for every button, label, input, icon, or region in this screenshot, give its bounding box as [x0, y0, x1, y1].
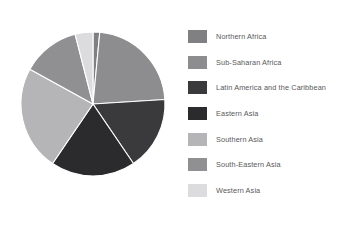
legend-item[interactable]: Southern Asia: [188, 126, 337, 152]
legend-item[interactable]: South-Eastern Asia: [188, 152, 337, 178]
legend-swatch-icon: [188, 81, 207, 94]
legend-item-label: Western Asia: [216, 187, 260, 194]
legend-item[interactable]: Latin America and the Caribbean: [188, 75, 337, 101]
legend-item[interactable]: Northern Africa: [188, 24, 337, 50]
legend-swatch-icon: [188, 30, 207, 43]
pie-slice-group: [21, 32, 165, 176]
pie-chart-figure: Northern AfricaSub-Saharan AfricaLatin A…: [0, 0, 337, 229]
legend-item[interactable]: Sub-Saharan Africa: [188, 50, 337, 76]
pie-svg: [0, 0, 190, 229]
legend-swatch-icon: [188, 133, 207, 146]
legend-swatch-icon: [188, 184, 207, 197]
legend-swatch-icon: [188, 56, 207, 69]
legend-swatch-icon: [188, 158, 207, 171]
chart-legend: Northern AfricaSub-Saharan AfricaLatin A…: [188, 24, 337, 203]
legend-item-label: Sub-Saharan Africa: [216, 59, 281, 66]
legend-item-label: Eastern Asia: [216, 110, 258, 117]
legend-item[interactable]: Eastern Asia: [188, 101, 337, 127]
pie-plot-area: [0, 0, 190, 229]
legend-item-label: Northern Africa: [216, 33, 266, 40]
pie-slice[interactable]: [93, 32, 165, 104]
legend-swatch-icon: [188, 107, 207, 120]
legend-item-label: Southern Asia: [216, 136, 263, 143]
legend-item-label: South-Eastern Asia: [216, 161, 281, 168]
legend-item[interactable]: Western Asia: [188, 178, 337, 204]
legend-item-label: Latin America and the Caribbean: [216, 84, 326, 91]
